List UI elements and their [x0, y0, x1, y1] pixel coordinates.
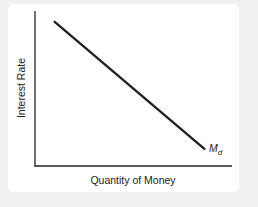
x-axis-title: Quantity of Money — [90, 174, 176, 186]
y-axis-title: Interest Rate — [15, 58, 27, 118]
money-demand-label: Md — [209, 142, 223, 157]
money-demand-line — [55, 22, 205, 149]
money-demand-chart: Md Quantity of Money Interest Rate — [0, 0, 258, 207]
